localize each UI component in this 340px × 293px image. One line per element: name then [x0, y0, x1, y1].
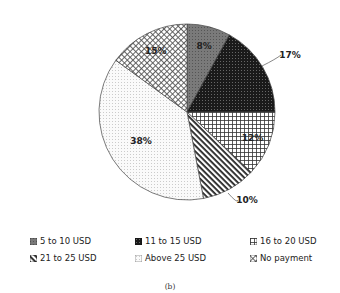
slice-label-0: 8%: [196, 41, 211, 51]
legend-item-11-to-15: 11 to 15 USD: [135, 236, 201, 248]
pie-chart: 8%17%12%10%38%15%: [0, 0, 340, 235]
slice-label-5: 15%: [145, 46, 167, 56]
slice-label-4: 38%: [130, 136, 152, 146]
figure-caption: (b): [0, 282, 340, 291]
dense-gray-swatch-icon: [30, 238, 37, 245]
pie-slices: [99, 24, 275, 200]
slice-label-2: 12%: [242, 133, 264, 143]
legend-item-5-to-10: 5 to 10 USD: [30, 236, 91, 248]
legend-item-no-payment: No payment: [250, 253, 312, 265]
slice-label-3: 10%: [236, 195, 258, 205]
dark-dotted-swatch-icon: [135, 238, 142, 245]
crosshatch-swatch-icon: [250, 255, 257, 262]
slice-label-1: 17%: [279, 50, 301, 60]
diagonal-stripes-swatch-icon: [30, 255, 37, 262]
light-dots-swatch-icon: [135, 255, 142, 262]
legend-item-above-25: Above 25 USD: [135, 253, 206, 265]
legend-item-16-to-20: 16 to 20 USD: [250, 236, 316, 248]
legend-item-21-to-25: 21 to 25 USD: [30, 253, 96, 265]
grid-swatch-icon: [250, 238, 257, 245]
